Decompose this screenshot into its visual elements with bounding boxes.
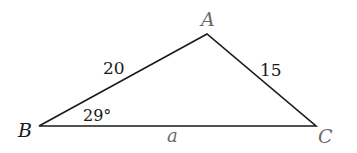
side-label-bc: a [167, 125, 178, 146]
side-label-ab: 20 [103, 58, 125, 78]
triangle-abc [39, 34, 316, 126]
triangle-diagram: A B C 20 15 a 29° [0, 0, 357, 153]
vertex-label-a: A [199, 8, 215, 30]
vertex-label-c: C [318, 125, 333, 147]
side-label-ac: 15 [260, 60, 282, 80]
angle-label-b: 29° [83, 106, 111, 125]
vertex-label-b: B [17, 119, 32, 141]
